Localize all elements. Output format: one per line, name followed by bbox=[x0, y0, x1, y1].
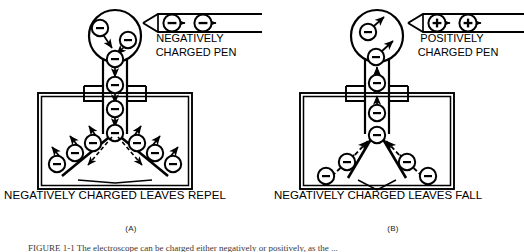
charge-token bbox=[369, 96, 385, 121]
charge-token bbox=[420, 168, 436, 184]
panel-b-bottom-caption: NEGATIVELY CHARGED LEAVES FALL bbox=[274, 189, 483, 201]
charge-token bbox=[369, 127, 385, 143]
panel-a-illustration: NEGATIVELY CHARGED LEAVES REPEL NEGATIVE… bbox=[0, 0, 262, 252]
pen-label-line1-b: POSITIVELY bbox=[420, 32, 484, 44]
panel-a: NEGATIVELY CHARGED LEAVES REPEL NEGATIVE… bbox=[0, 0, 262, 252]
charge-token bbox=[85, 126, 101, 151]
charge-token bbox=[360, 17, 384, 40]
charge-token bbox=[147, 136, 163, 161]
panel-b-illustration: NEGATIVELY CHARGED LEAVES FALL POSITIVEL… bbox=[262, 0, 524, 252]
charge-token bbox=[165, 147, 181, 172]
charge-token bbox=[318, 168, 334, 184]
panel-a-bottom-caption: NEGATIVELY CHARGED LEAVES REPEL bbox=[4, 189, 227, 201]
charge-token bbox=[117, 32, 136, 54]
charge-token bbox=[399, 154, 415, 170]
caption-leader-lines bbox=[78, 180, 152, 183]
pen-charge-tokens-a bbox=[163, 14, 211, 31]
pen-charge-tokens-b bbox=[428, 14, 476, 31]
pen-label-line2-b: CHARGED PEN bbox=[418, 46, 499, 58]
charge-token bbox=[107, 51, 123, 77]
charge-token bbox=[49, 147, 65, 172]
charge-token bbox=[67, 136, 83, 161]
panel-b-label: (B) bbox=[262, 224, 524, 233]
charge-token bbox=[339, 154, 355, 170]
pen-label-line2-a: CHARGED PEN bbox=[156, 46, 237, 58]
charge-token bbox=[107, 125, 123, 141]
charge-token bbox=[107, 101, 123, 127]
panel-b: NEGATIVELY CHARGED LEAVES FALL POSITIVEL… bbox=[262, 0, 524, 252]
charge-token bbox=[92, 20, 112, 48]
figure-caption: FIGURE 1-1 The electroscope can be charg… bbox=[0, 243, 524, 252]
charge-token bbox=[107, 77, 123, 103]
electron-charges-panel-b bbox=[318, 17, 436, 184]
charge-token bbox=[129, 126, 145, 151]
pen-label-line1-a: NEGATIVELY bbox=[156, 32, 224, 44]
panel-a-label: (A) bbox=[0, 224, 262, 233]
electroscope-figure: NEGATIVELY CHARGED LEAVES REPEL NEGATIVE… bbox=[0, 0, 524, 252]
charge-token bbox=[369, 67, 385, 91]
